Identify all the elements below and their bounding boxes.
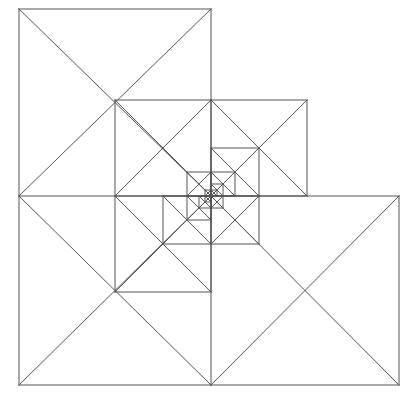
fractal-figure: Recursive L-tromino pinwheel fractal A s… — [0, 0, 416, 402]
fractal-line-group — [19, 9, 399, 385]
